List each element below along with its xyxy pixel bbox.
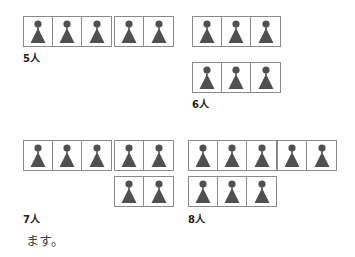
person-icon — [284, 144, 300, 167]
person-cell — [115, 177, 144, 206]
person-cell — [53, 17, 82, 46]
person-icon — [121, 180, 137, 203]
person-cell — [193, 63, 222, 92]
person-cell — [144, 17, 173, 46]
person-group — [188, 140, 277, 171]
person-group — [277, 140, 337, 171]
person-cell — [247, 141, 276, 170]
person-icon — [228, 66, 244, 89]
person-cell — [251, 63, 280, 92]
label-6: 6人 — [192, 96, 209, 111]
person-cell — [189, 141, 218, 170]
person-icon — [258, 66, 274, 89]
person-cell — [189, 177, 218, 206]
person-cell — [278, 141, 307, 170]
person-icon — [228, 20, 244, 43]
person-cell — [251, 17, 280, 46]
person-icon — [121, 20, 137, 43]
person-group — [23, 16, 112, 47]
label-8: 8人 — [188, 211, 205, 226]
person-cell — [144, 177, 173, 206]
person-icon — [224, 180, 240, 203]
person-icon — [30, 144, 46, 167]
person-icon — [151, 180, 167, 203]
label-5: 5人 — [23, 50, 40, 65]
person-icon — [121, 144, 137, 167]
person-group — [192, 62, 281, 93]
person-cell — [218, 141, 247, 170]
person-cell — [53, 141, 82, 170]
person-icon — [314, 144, 330, 167]
person-cell — [24, 17, 53, 46]
person-icon — [151, 144, 167, 167]
person-icon — [59, 20, 75, 43]
person-cell — [144, 141, 173, 170]
person-cell — [82, 141, 111, 170]
person-icon — [195, 144, 211, 167]
person-group — [192, 16, 281, 47]
person-group — [114, 176, 174, 207]
person-group — [23, 140, 112, 171]
person-icon — [89, 20, 105, 43]
person-cell — [222, 63, 251, 92]
person-cell — [193, 17, 222, 46]
caption-text: ます。 — [26, 230, 64, 249]
person-group — [114, 16, 174, 47]
person-icon — [195, 180, 211, 203]
person-cell — [82, 17, 111, 46]
person-group — [188, 176, 277, 207]
person-icon — [258, 20, 274, 43]
person-icon — [30, 20, 46, 43]
person-cell — [115, 17, 144, 46]
person-icon — [254, 180, 270, 203]
person-icon — [59, 144, 75, 167]
person-cell — [222, 17, 251, 46]
person-icon — [151, 20, 167, 43]
person-cell — [307, 141, 336, 170]
person-group — [114, 140, 174, 171]
person-cell — [24, 141, 53, 170]
person-cell — [247, 177, 276, 206]
person-icon — [254, 144, 270, 167]
person-icon — [199, 66, 215, 89]
person-icon — [199, 20, 215, 43]
person-icon — [89, 144, 105, 167]
person-cell — [218, 177, 247, 206]
person-icon — [224, 144, 240, 167]
person-cell — [115, 141, 144, 170]
label-7: 7人 — [23, 211, 40, 226]
